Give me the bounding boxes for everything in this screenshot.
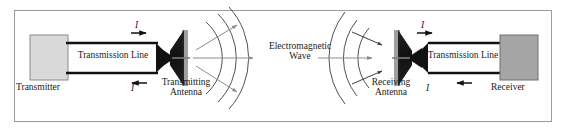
current-label-rx-top: I bbox=[421, 21, 424, 31]
transmission-line-left-label: Transmission Line bbox=[78, 51, 149, 61]
transmitter-block bbox=[30, 35, 68, 80]
receiver-block bbox=[500, 35, 538, 80]
receiving-antenna-label-line2: Antenna bbox=[372, 88, 411, 98]
electromagnetic-wave-label: Electromagnetic Wave bbox=[269, 42, 331, 62]
current-label-tx-bottom: I bbox=[131, 84, 134, 94]
current-label-rx-bottom: I bbox=[426, 84, 429, 94]
transmission-line-right-label: Transmission Line bbox=[428, 51, 499, 61]
electromagnetic-wave-label-line2: Wave bbox=[269, 52, 331, 62]
transmitting-antenna-label-line2: Antenna bbox=[162, 88, 211, 98]
transmitting-antenna-label: Transmitting Antenna bbox=[162, 78, 211, 98]
receiver-label: Receiver bbox=[491, 83, 525, 93]
receiving-antenna-label: Receiving Antenna bbox=[372, 78, 411, 98]
current-label-tx-top: I bbox=[135, 21, 138, 31]
figure-root: Transmitter Receiver Transmission Line T… bbox=[0, 0, 568, 135]
transmitter-label: Transmitter bbox=[16, 83, 60, 93]
diagram-canvas bbox=[0, 0, 568, 135]
